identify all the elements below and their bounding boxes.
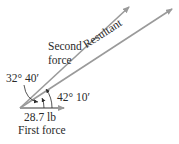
second-force-label-line1: Second — [48, 39, 82, 53]
angle-label-42-10: 42° 10′ — [57, 91, 90, 104]
first-force-label: First force — [18, 124, 66, 137]
angle-arc-42-10 — [46, 89, 52, 108]
second-force-label-line2: force — [48, 53, 82, 67]
force-diagram: Second force Resultant 32° 40′ 42° 10′ 2… — [0, 0, 179, 144]
resultant-arrow — [20, 9, 172, 108]
second-force-label: Second force — [48, 39, 82, 67]
angle-label-32-40-text: 32° 40′ — [6, 72, 39, 84]
first-force-label-text: First force — [18, 124, 66, 136]
angle-label-42-10-text: 42° 10′ — [57, 91, 90, 103]
angle-label-32-40: 32° 40′ — [6, 72, 39, 85]
first-force-magnitude: 28.7 lb — [24, 111, 56, 124]
angle-arc-32-40 — [42, 98, 44, 108]
first-force-magnitude-text: 28.7 lb — [24, 111, 56, 123]
